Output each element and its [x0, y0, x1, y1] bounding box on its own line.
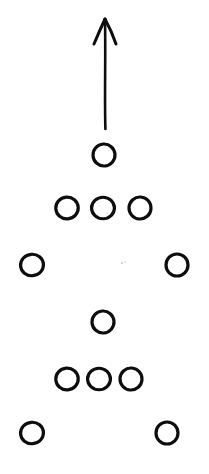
diagram-canvas [0, 0, 209, 474]
scan-speck-1 [121, 262, 123, 264]
formation-diagram [0, 0, 209, 474]
scan-speck-2 [124, 261, 126, 263]
